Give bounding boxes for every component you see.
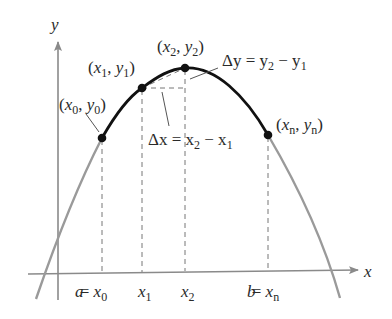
tick-label-a-x0: a = x0 [75,282,107,304]
label-p0: (x0, y0) [59,95,106,117]
point-p2 [181,64,190,73]
tick-label-b-xn: b = xn [247,282,279,304]
delta-y-annotation: Δy = y2 − y1 [222,51,307,73]
leader-delta-x [162,92,169,126]
label-pn: (xn, yn) [276,115,323,137]
arc-length-diagram: x y (x0, y0) (x1, y1) (x2, y2) (xn, yn) … [0,0,392,319]
curve-right-tail [268,135,340,298]
tick-label-x1: x1 [137,282,152,304]
delta-x-annotation: Δx = x2 − x1 [148,130,233,152]
point-p0 [98,134,107,143]
curve-left-tail [36,138,102,299]
x-axis-label: x [363,262,372,281]
point-p1 [138,84,147,93]
y-axis-label: y [49,15,59,34]
x-axis [28,270,358,274]
label-p2: (x2, y2) [157,37,204,59]
label-p1: (x1, y1) [88,58,135,80]
tick-label-x2: x2 [180,282,195,304]
point-pn [264,131,273,140]
